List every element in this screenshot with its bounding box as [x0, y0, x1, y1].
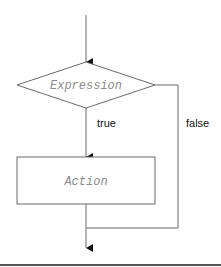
- flowchart-canvas: Expression true false Action: [0, 0, 221, 267]
- action-label: Action: [63, 175, 107, 189]
- decision-label: Expression: [50, 79, 122, 93]
- false-label: false: [186, 117, 209, 129]
- true-label: true: [97, 117, 116, 129]
